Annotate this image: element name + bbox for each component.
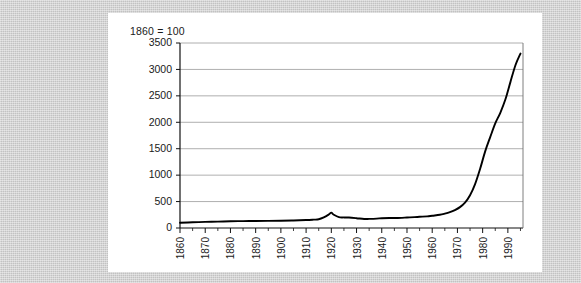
screenshot-root: 1860 = 100 0500100015002000250030003500 … <box>0 0 581 283</box>
y-tick-label-3500: 3500 <box>149 36 173 48</box>
x-tick-label-1950: 1950 <box>402 237 413 260</box>
figure-card: 1860 = 100 0500100015002000250030003500 … <box>108 13 542 272</box>
series-line-index <box>180 54 520 223</box>
x-tick-label-1870: 1870 <box>200 237 211 260</box>
line-chart-figure: 1860 = 100 0500100015002000250030003500 … <box>108 13 542 272</box>
x-axis-ticks <box>180 228 520 233</box>
x-tick-label-1860: 1860 <box>175 237 186 260</box>
x-tick-label-1970: 1970 <box>452 237 463 260</box>
x-tick-label-1960: 1960 <box>427 237 438 260</box>
y-tick-label-3000: 3000 <box>149 63 173 75</box>
x-tick-label-1920: 1920 <box>326 237 337 260</box>
y-tick-label-1500: 1500 <box>149 142 173 154</box>
x-tick-label-1900: 1900 <box>276 237 287 260</box>
x-tick-label-1890: 1890 <box>251 237 262 260</box>
y-tick-label-500: 500 <box>154 195 172 207</box>
x-tick-label-1910: 1910 <box>301 237 312 260</box>
x-axis-tick-labels: 1860187018801890190019101920193019401950… <box>175 237 514 260</box>
x-tick-label-1880: 1880 <box>225 237 236 260</box>
y-axis-tick-labels: 0500100015002000250030003500 <box>149 36 173 233</box>
y-tick-label-2000: 2000 <box>149 116 173 128</box>
x-tick-label-1990: 1990 <box>503 237 514 260</box>
x-tick-label-1940: 1940 <box>377 237 388 260</box>
plot-area: 0500100015002000250030003500 18601870188… <box>108 13 542 272</box>
plot-frame <box>180 43 523 228</box>
y-tick-label-1000: 1000 <box>149 168 173 180</box>
y-tick-label-0: 0 <box>166 221 172 233</box>
chart-canvas: 0500100015002000250030003500 18601870188… <box>108 13 542 272</box>
x-tick-label-1930: 1930 <box>352 237 363 260</box>
y-tick-label-2500: 2500 <box>149 89 173 101</box>
y-axis-ticks <box>176 43 180 228</box>
x-tick-label-1980: 1980 <box>478 237 489 260</box>
gridlines <box>180 43 523 228</box>
